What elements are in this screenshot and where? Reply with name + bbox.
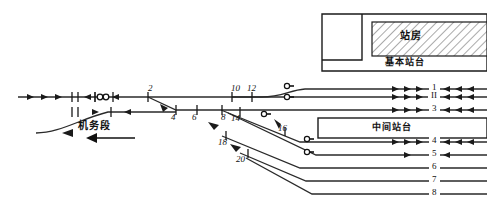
- track-number-3: 3: [429, 104, 440, 113]
- signal-icon: [284, 83, 294, 88]
- main-platform-label: 基本站台: [385, 58, 425, 67]
- line-track8: [246, 158, 487, 194]
- switch-number-14: 14: [231, 114, 240, 123]
- track-number-7: 7: [429, 175, 440, 184]
- switch-number-8: 8: [221, 113, 226, 122]
- track-number-5: 5: [429, 149, 440, 158]
- signal-icon: [261, 111, 271, 116]
- switch-number-16: 16: [278, 124, 287, 133]
- track-layout-diagram: 机务段 站房 基本站台 中间站台 2 4 6 8 10 12 14 16 18 …: [0, 0, 487, 208]
- switch-number-4: 4: [171, 113, 176, 122]
- switch-number-12: 12: [247, 84, 256, 93]
- switch-number-20: 20: [236, 155, 245, 164]
- signal-icon: [304, 136, 314, 141]
- depot-direction-arrow: [86, 133, 135, 143]
- station-building-shape: [372, 22, 487, 56]
- track-number-6: 6: [429, 162, 440, 171]
- track-number-2: II: [428, 91, 440, 100]
- insulated-joint-icon: [95, 92, 109, 102]
- switch-number-2: 2: [148, 84, 153, 93]
- signal-icon: [284, 94, 294, 99]
- switch-number-18: 18: [218, 138, 227, 147]
- track-number-4: 4: [429, 136, 440, 145]
- switch-number-10: 10: [231, 84, 240, 93]
- depot-label: 机务段: [78, 121, 111, 131]
- track-number-8: 8: [429, 188, 440, 197]
- switch-number-6: 6: [192, 113, 197, 122]
- middle-platform-label: 中间站台: [372, 123, 412, 132]
- station-building-label: 站房: [400, 31, 422, 41]
